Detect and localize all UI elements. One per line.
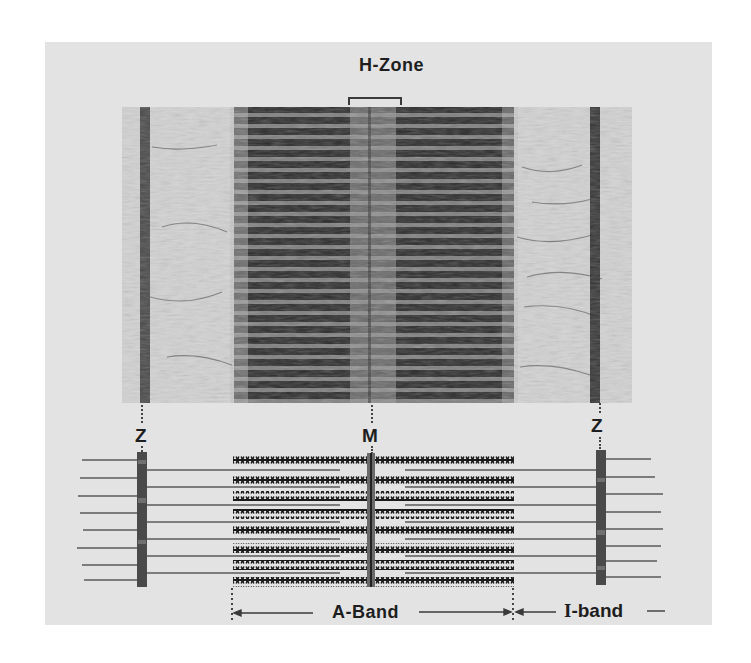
thin-filaments-right-inner [405,470,596,573]
a-band-label: A-Band [332,603,399,621]
i-band-label: I-band [564,601,623,620]
z-disc-left [137,452,147,587]
thin-filaments-left-inner [147,470,340,573]
z-disc-right [596,450,606,585]
thin-filaments-left-outer [77,460,137,580]
i-band-label-suffix: -band [571,600,623,621]
sarcomere-schematic [0,0,751,663]
thin-filaments-right-outer [606,459,663,577]
